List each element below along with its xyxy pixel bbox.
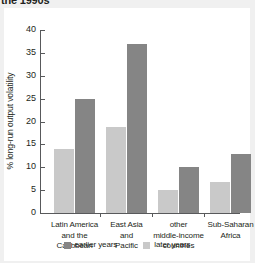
y-axis-tick-label: 30: [26, 69, 36, 82]
legend-swatch-icon: [64, 242, 71, 249]
chart-panel: % long-run output volatility 05101520253…: [4, 8, 250, 261]
y-axis-tick-mark: [41, 76, 45, 77]
bar: [127, 44, 147, 213]
legend-item-later[interactable]: later years: [143, 240, 190, 250]
bar-group: [106, 30, 147, 213]
y-axis-tick-label: 5: [31, 183, 36, 196]
y-axis-tick-label: 40: [26, 23, 36, 36]
legend-label: later years: [154, 240, 190, 250]
bar: [158, 190, 178, 213]
x-axis-tick-mark: [152, 213, 153, 217]
y-axis-title: % long-run output volatility: [5, 73, 15, 170]
y-axis-tick-label: 0: [31, 206, 36, 219]
legend-label: earlier years: [75, 240, 118, 250]
x-axis-tick-mark: [204, 213, 205, 217]
plot-area: % long-run output volatility 05101520253…: [40, 26, 242, 217]
y-axis-tick-label: 15: [26, 137, 36, 150]
legend-item-earlier[interactable]: earlier years: [64, 240, 118, 250]
x-axis-line: [40, 213, 240, 214]
y-axis-tick-mark: [41, 167, 45, 168]
x-axis-label-line: other: [152, 220, 206, 231]
y-axis-tick-mark: [41, 190, 45, 191]
x-axis-label-line: East Asia: [100, 220, 154, 231]
y-axis-tick-mark: [41, 213, 45, 214]
y-axis-tick-mark: [41, 99, 45, 100]
bar-group: [54, 30, 95, 213]
legend-swatch-icon: [143, 242, 150, 249]
x-axis-label: Sub-SaharanAfrica: [204, 220, 255, 241]
x-axis-label-line: Latin America: [48, 220, 102, 231]
y-axis-tick-mark: [41, 53, 45, 54]
y-axis-tick-mark: [41, 144, 45, 145]
figure-title: the 1990s: [0, 0, 254, 8]
bar: [75, 99, 95, 213]
bar: [106, 127, 126, 213]
y-axis-tick-label: 35: [26, 46, 36, 59]
bar-group: [158, 30, 199, 213]
legend: earlier yearslater years: [4, 240, 250, 250]
y-axis-tick-label: 25: [26, 92, 36, 105]
y-axis-tick-mark: [41, 30, 45, 31]
bar-group: [210, 30, 251, 213]
y-axis-tick-label: 10: [26, 160, 36, 173]
x-axis-tick-mark: [100, 213, 101, 217]
bar: [179, 167, 199, 213]
x-axis-label-line: Sub-Saharan: [204, 220, 255, 231]
bar: [210, 182, 230, 213]
bar: [54, 149, 74, 213]
y-axis-tick-label: 20: [26, 115, 36, 128]
y-axis-tick-mark: [41, 122, 45, 123]
bar: [231, 154, 251, 213]
